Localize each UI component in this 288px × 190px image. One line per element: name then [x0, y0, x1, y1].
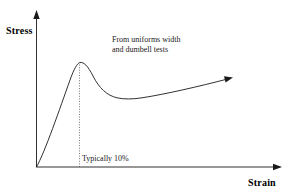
x-axis-arrow-icon [273, 164, 282, 170]
curve-end-arrow-icon [224, 76, 233, 82]
curve-annotation: From uniforms width and dumbell tests [112, 35, 180, 54]
x-axis-label: Strain [248, 177, 276, 188]
curve-annotation-line-1: From uniforms width [112, 35, 180, 45]
stress-strain-figure: Stress Strain From uniforms width and du… [0, 0, 288, 190]
typical-strain-label: Typically 10% [82, 154, 129, 164]
y-axis-arrow-icon [33, 10, 39, 19]
y-axis-label: Stress [6, 25, 33, 36]
plot-area [0, 0, 288, 190]
curve-annotation-line-2: and dumbell tests [112, 45, 180, 55]
stress-strain-curve [37, 62, 227, 167]
